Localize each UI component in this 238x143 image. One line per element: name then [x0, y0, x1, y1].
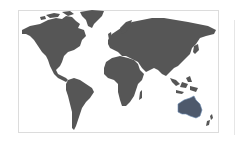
- world-map: [0, 0, 238, 143]
- region-madagascar[interactable]: [139, 90, 142, 100]
- region-greenland[interactable]: [80, 10, 104, 28]
- region-south-america[interactable]: [66, 78, 94, 130]
- region-southeast-asia-islands[interactable]: [170, 76, 198, 94]
- region-north-america[interactable]: [22, 16, 86, 82]
- region-africa[interactable]: [104, 56, 144, 106]
- region-australia[interactable]: [178, 96, 202, 118]
- region-new-zealand[interactable]: [206, 114, 213, 126]
